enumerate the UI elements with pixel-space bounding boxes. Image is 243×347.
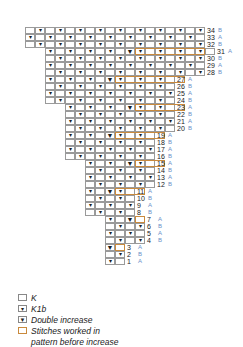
knit-icon bbox=[18, 294, 27, 301]
k1b-cell: ▾ bbox=[125, 230, 135, 237]
knit-cell bbox=[85, 55, 95, 62]
k1b-icon: ▾ bbox=[156, 77, 164, 82]
k1b-icon: ▾ bbox=[106, 105, 114, 110]
k1b-icon: ▾ bbox=[106, 35, 114, 40]
side-label: B bbox=[158, 223, 162, 230]
k1b-icon: ▾ bbox=[76, 56, 84, 61]
knit-cell bbox=[95, 202, 105, 209]
k1b-icon: ▾ bbox=[116, 154, 124, 159]
knit-cell bbox=[95, 104, 105, 111]
knit-cell bbox=[105, 55, 115, 62]
knit-cell bbox=[105, 83, 115, 90]
k1b-icon: ▾ bbox=[46, 77, 54, 82]
knit-cell bbox=[125, 237, 135, 244]
knit-icon bbox=[56, 77, 64, 82]
knit-icon bbox=[136, 231, 144, 236]
legend-label: K bbox=[31, 293, 37, 303]
k1b-icon: ▾ bbox=[136, 133, 144, 138]
knit-cell bbox=[145, 69, 155, 76]
knit-icon bbox=[56, 49, 64, 54]
k1b-icon: ▾ bbox=[116, 189, 124, 194]
knit-icon bbox=[46, 28, 54, 33]
k1b-icon: ▾ bbox=[96, 70, 104, 75]
double-increase-icon: ▼ bbox=[126, 105, 134, 110]
k1b-cell: ▾ bbox=[65, 48, 75, 55]
knit-icon bbox=[116, 91, 124, 96]
k1b-icon: ▾ bbox=[76, 154, 84, 159]
knit-icon bbox=[156, 35, 164, 40]
knit-icon bbox=[146, 168, 154, 173]
knit-icon bbox=[116, 217, 124, 222]
knit-icon bbox=[86, 98, 94, 103]
k1b-cell: ▾ bbox=[105, 34, 115, 41]
k1b-icon: ▾ bbox=[106, 161, 114, 166]
knit-cell bbox=[145, 153, 155, 160]
knit-cell bbox=[95, 188, 105, 195]
k1b-icon: ▾ bbox=[126, 119, 134, 124]
k1b-cell: ▾ bbox=[175, 55, 185, 62]
knit-icon bbox=[136, 35, 144, 40]
knit-cell bbox=[85, 41, 95, 48]
k1b-cell: ▾ bbox=[85, 174, 95, 181]
knit-cell bbox=[65, 111, 75, 118]
knit-icon bbox=[56, 63, 64, 68]
k1b-cell: ▾ bbox=[105, 118, 115, 125]
k1b-icon: ▾ bbox=[176, 56, 184, 61]
k1b-cell: ▾ bbox=[95, 111, 105, 118]
k1b-cell: ▾ bbox=[195, 48, 205, 55]
k1b-cell: ▾ bbox=[45, 62, 55, 69]
k1b-icon: ▾ bbox=[136, 105, 144, 110]
knit-icon bbox=[146, 77, 154, 82]
k1b-cell: ▾ bbox=[155, 27, 165, 34]
knit-cell bbox=[125, 27, 135, 34]
knit-icon bbox=[126, 70, 134, 75]
k1b-icon: ▾ bbox=[116, 168, 124, 173]
knit-cell bbox=[95, 48, 105, 55]
k1b-icon: ▾ bbox=[176, 42, 184, 47]
k1b-cell: ▾ bbox=[155, 55, 165, 62]
k1b-cell: ▾ bbox=[55, 97, 65, 104]
knit-cell bbox=[135, 146, 145, 153]
knit-cell bbox=[45, 97, 55, 104]
side-label: B bbox=[218, 27, 222, 34]
knit-cell bbox=[155, 34, 165, 41]
knit-cell bbox=[145, 160, 155, 167]
k1b-cell: ▾ bbox=[145, 34, 155, 41]
k1b-icon: ▾ bbox=[196, 70, 204, 75]
k1b-icon: ▾ bbox=[116, 77, 124, 82]
k1b-icon: ▾ bbox=[66, 91, 74, 96]
k1b-cell: ▾ bbox=[125, 90, 135, 97]
k1b-cell: ▾ bbox=[95, 139, 105, 146]
k1b-icon: ▾ bbox=[136, 42, 144, 47]
k1b-icon: ▾ bbox=[156, 105, 164, 110]
knit-icon bbox=[206, 49, 214, 54]
knit-cell bbox=[185, 55, 195, 62]
k1b-cell: ▾ bbox=[115, 97, 125, 104]
k1b-icon: ▾ bbox=[46, 91, 54, 96]
k1b-cell: ▾ bbox=[125, 174, 135, 181]
k1b-icon: ▾ bbox=[96, 210, 104, 215]
k1b-cell: ▾ bbox=[135, 125, 145, 132]
k1b-cell: ▾ bbox=[115, 69, 125, 76]
k1b-cell: ▾ bbox=[105, 202, 115, 209]
knit-cell bbox=[95, 146, 105, 153]
knit-cell bbox=[75, 62, 85, 69]
k1b-icon: ▾ bbox=[56, 28, 64, 33]
knit-icon bbox=[96, 91, 104, 96]
knit-cell bbox=[165, 125, 175, 132]
side-label: B bbox=[148, 195, 152, 202]
knit-cell bbox=[115, 230, 125, 237]
knit-icon bbox=[126, 28, 134, 33]
k1b-icon: ▾ bbox=[126, 175, 134, 180]
knit-cell bbox=[75, 118, 85, 125]
k1b-icon: ▾ bbox=[86, 175, 94, 180]
k1b-cell: ▾ bbox=[55, 55, 65, 62]
side-label: A bbox=[168, 132, 172, 139]
k1b-icon: ▾ bbox=[126, 147, 134, 152]
k1b-icon: ▾ bbox=[66, 133, 74, 138]
k1b-icon: ▾ bbox=[196, 42, 204, 47]
knit-icon bbox=[36, 35, 44, 40]
k1b-icon: ▾ bbox=[176, 49, 184, 54]
knit-cell bbox=[145, 83, 155, 90]
knit-icon bbox=[126, 133, 134, 138]
